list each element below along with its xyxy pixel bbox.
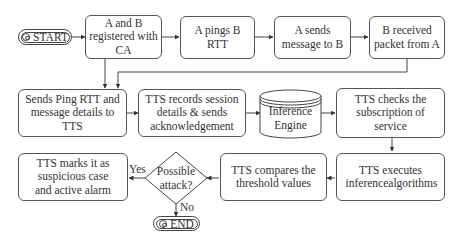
edge-label-no: No bbox=[180, 201, 194, 213]
node-send-details: Sends Ping RTT and message details to TT… bbox=[18, 89, 127, 137]
edge-label-yes: Yes bbox=[129, 163, 146, 175]
node-subscription-text: TTS checks the subscription of service bbox=[341, 93, 441, 134]
node-send-details-text: Sends Ping RTT and message details to TT… bbox=[21, 93, 124, 134]
node-compares: TTS compares the threshold values bbox=[220, 153, 327, 201]
start-terminal: START bbox=[18, 29, 72, 45]
node-executes-text: TTS executes inferencealgorithms bbox=[346, 164, 436, 191]
node-ping-text: A pings B RTT bbox=[193, 24, 243, 51]
node-subscription: TTS checks the subscription of service bbox=[336, 88, 445, 138]
start-label: START bbox=[33, 31, 68, 43]
edge-received-details bbox=[118, 59, 407, 88]
stop-icon bbox=[159, 220, 167, 228]
node-records-text: TTS records session details & sends ackn… bbox=[141, 93, 243, 134]
end-label: END bbox=[170, 218, 194, 230]
node-send-msg-text: A sends message to B bbox=[279, 24, 347, 51]
node-compares-text: TTS compares the threshold values bbox=[226, 164, 322, 191]
node-ping: A pings B RTT bbox=[180, 16, 255, 59]
node-registered-text: A and B registered with CA bbox=[88, 17, 159, 58]
end-terminal: END bbox=[153, 216, 200, 231]
node-engine-text: Inference Engine bbox=[266, 104, 316, 132]
node-decision-text: Possible attack? bbox=[157, 165, 195, 191]
node-executes: TTS executes inferencealgorithms bbox=[336, 153, 445, 201]
node-records: TTS records session details & sends ackn… bbox=[138, 89, 246, 137]
node-marks-text: TTS marks it as suspicious case and acti… bbox=[29, 157, 117, 198]
node-send-msg: A sends message to B bbox=[274, 16, 351, 59]
node-decision: Possible attack? bbox=[150, 164, 202, 192]
eye-icon bbox=[22, 33, 30, 41]
node-engine: Inference Engine bbox=[260, 104, 321, 132]
node-marks: TTS marks it as suspicious case and acti… bbox=[18, 153, 128, 201]
node-registered: A and B registered with CA bbox=[85, 15, 162, 59]
node-received-text: B received packet from A bbox=[372, 24, 442, 51]
node-received: B received packet from A bbox=[369, 16, 445, 59]
